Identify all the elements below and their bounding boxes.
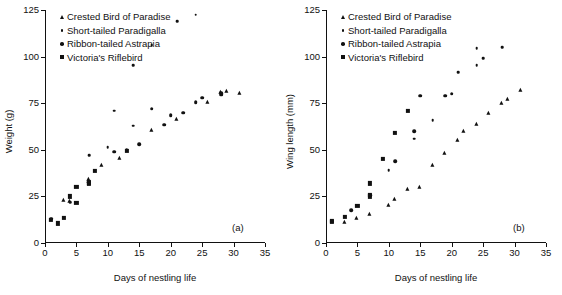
- data-point: [99, 163, 103, 167]
- dot-small-glyph: [61, 29, 64, 32]
- panel-a-y-tick-label: 100: [23, 52, 39, 62]
- legend-item-2: Short-tailed Paradigalla: [338, 24, 452, 38]
- data-point: [132, 64, 135, 67]
- data-point: [450, 92, 454, 96]
- data-point: [474, 122, 478, 126]
- square-marker-icon: [57, 55, 67, 59]
- data-point: [380, 157, 384, 161]
- data-point: [74, 201, 78, 205]
- data-point: [93, 169, 97, 173]
- data-point: [200, 96, 204, 100]
- data-point: [462, 129, 466, 133]
- data-point: [444, 94, 448, 98]
- panel-b-x-tick-label: 10: [384, 248, 395, 258]
- panel-a-y-tick-label: 75: [28, 98, 39, 108]
- data-point: [149, 128, 153, 132]
- legend-item-label: Crested Bird of Paradise: [348, 12, 452, 22]
- panel-a-y-tick-label: 0: [34, 238, 39, 248]
- data-point: [406, 109, 410, 113]
- legend-item-label: Victoria's Riflebird: [67, 53, 143, 63]
- data-point: [62, 216, 66, 220]
- data-point: [87, 180, 91, 184]
- panel-a-x-tick-label: 15: [134, 248, 145, 258]
- panel-a-y-tick-label: 50: [28, 145, 39, 155]
- data-point: [487, 110, 491, 114]
- data-point: [432, 119, 435, 122]
- panel-b-x-tick-label: 15: [415, 248, 426, 258]
- data-point: [412, 129, 416, 133]
- panel-a-x-tick-label: 10: [103, 248, 114, 258]
- panel-b-x-tick-label: 35: [541, 248, 552, 258]
- data-point: [393, 197, 397, 201]
- data-point: [499, 101, 503, 105]
- data-point: [393, 159, 397, 163]
- legend-item-label: Ribbon-tailed Astrapia: [67, 39, 160, 49]
- panel-a-x-tick-label: 35: [260, 248, 271, 258]
- panel-b-legend: Crested Bird of ParadiseShort-tailed Par…: [338, 10, 452, 64]
- scatter-figure: Weight (g) Days of nestling life (a) 025…: [0, 0, 562, 295]
- legend-item-3: Ribbon-tailed Astrapia: [57, 37, 171, 51]
- data-point: [367, 212, 371, 216]
- data-point: [113, 109, 116, 112]
- dot-small-marker-icon: [57, 29, 67, 32]
- data-point: [237, 91, 241, 95]
- data-point: [413, 137, 416, 140]
- data-point: [125, 149, 129, 153]
- dot-medium-marker-icon: [338, 42, 348, 46]
- panel-a: Weight (g) Days of nestling life (a) 025…: [0, 0, 281, 295]
- data-point: [368, 192, 372, 196]
- data-point: [107, 146, 110, 149]
- panel-a-y-tick: [41, 196, 45, 197]
- square-glyph: [341, 55, 345, 59]
- triangle-marker-icon: [338, 15, 348, 19]
- panel-a-y-axis-line: [45, 10, 46, 243]
- legend-item-1: Crested Bird of Paradise: [57, 10, 171, 24]
- legend-item-4: Victoria's Riflebird: [57, 51, 171, 65]
- dot-medium-glyph: [341, 42, 345, 46]
- panel-a-y-axis-title: Weight (g): [3, 110, 14, 154]
- panel-a-y-tick-label: 25: [28, 192, 39, 202]
- panel-a-x-tick-label: 30: [228, 248, 239, 258]
- data-point: [88, 154, 91, 157]
- panel-a-y-tick: [41, 103, 45, 104]
- panel-b-y-tick: [322, 10, 326, 11]
- data-point: [74, 185, 78, 189]
- data-point: [150, 107, 154, 111]
- data-point: [195, 13, 198, 16]
- panel-b-y-tick: [322, 150, 326, 151]
- dot-small-glyph: [342, 29, 345, 32]
- panel-b-y-tick: [322, 196, 326, 197]
- panel-a-y-tick: [41, 57, 45, 58]
- legend-item-label: Crested Bird of Paradise: [67, 12, 171, 22]
- triangle-marker-icon: [57, 15, 67, 19]
- data-point: [418, 185, 422, 189]
- data-point: [137, 142, 141, 146]
- panel-b-y-tick-label: 50: [309, 145, 320, 155]
- square-glyph: [60, 55, 64, 59]
- dot-small-marker-icon: [338, 29, 348, 32]
- data-point: [69, 201, 72, 204]
- square-marker-icon: [338, 55, 348, 59]
- data-point: [405, 187, 409, 191]
- panel-b-y-axis-line: [326, 10, 327, 243]
- panel-a-x-tick-label: 20: [165, 248, 176, 258]
- panel-b-y-tick-label: 25: [309, 192, 320, 202]
- panel-b-y-tick: [322, 103, 326, 104]
- data-point: [386, 203, 390, 207]
- data-point: [206, 100, 210, 104]
- data-point: [501, 46, 504, 49]
- triangle-glyph: [341, 15, 345, 19]
- panel-a-x-tick-label: 5: [74, 248, 79, 258]
- panel-b-y-axis-title: Wing length (mm): [284, 94, 295, 169]
- data-point: [225, 89, 229, 93]
- data-point: [349, 209, 353, 213]
- panel-a-y-tick: [41, 10, 45, 11]
- dot-medium-glyph: [60, 42, 64, 46]
- panel-b-x-axis-title: Days of nestling life: [395, 272, 477, 283]
- legend-item-label: Ribbon-tailed Astrapia: [348, 39, 441, 49]
- panel-a-x-tick-label: 25: [197, 248, 208, 258]
- data-point: [518, 88, 522, 92]
- panel-a-legend: Crested Bird of ParadiseShort-tailed Par…: [57, 10, 171, 64]
- data-point: [476, 47, 479, 50]
- data-point: [418, 94, 422, 98]
